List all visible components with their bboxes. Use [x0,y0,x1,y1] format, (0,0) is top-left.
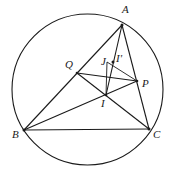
label-Q: Q [65,58,73,70]
point-I [105,94,108,97]
label-J: J [101,55,107,67]
point-I-prime [112,61,115,64]
point-P [136,80,139,83]
label-C: C [153,128,161,140]
label-I: I [100,97,106,109]
segment-BP [24,81,137,130]
label-I-prime: I' [115,52,123,64]
point-A [121,24,124,27]
point-C [148,128,151,131]
point-B [23,129,26,132]
label-A: A [121,3,129,15]
segment-BC [24,129,149,130]
point-Q [76,72,79,75]
circumcircle [12,14,163,165]
geometry-diagram: A B C Q P I J I' [0,0,171,175]
label-P: P [141,77,149,89]
label-B: B [12,128,19,140]
